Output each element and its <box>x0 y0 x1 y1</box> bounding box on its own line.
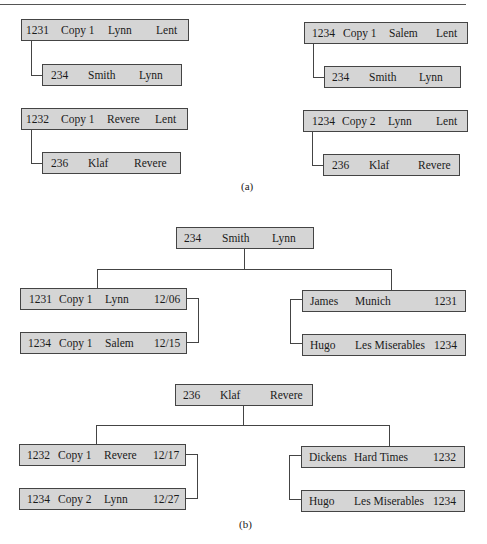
record-box: 1234 Copy 2 Lynn 12/27 <box>19 488 186 510</box>
field: 1231 <box>29 289 52 309</box>
field: Smith <box>88 65 115 85</box>
connector <box>312 165 323 166</box>
field: Les Miserables <box>354 491 424 511</box>
field: Copy 1 <box>58 445 92 465</box>
field: 236 <box>51 153 68 173</box>
connector <box>290 299 291 344</box>
field: 1234 <box>433 491 456 511</box>
root-record-box: 236 Klaf Revere <box>175 384 313 406</box>
field: Lent <box>156 20 177 40</box>
field: 12/06 <box>154 289 180 309</box>
field: Revere <box>134 153 167 173</box>
connector <box>290 299 302 300</box>
connector <box>97 269 98 288</box>
field: Lynn <box>388 111 412 131</box>
field: 1232 <box>26 109 49 129</box>
field: 12/15 <box>154 333 180 353</box>
field: Revere <box>104 445 137 465</box>
field: Lynn <box>139 65 163 85</box>
record-box: 1231 Copy 1 Lynn 12/06 <box>20 288 187 310</box>
connector <box>187 342 199 343</box>
field: Copy 2 <box>58 489 92 509</box>
field: James <box>310 291 338 311</box>
field: 1231 <box>434 291 457 311</box>
connector <box>312 132 313 166</box>
record-box: 236 Klaf Revere <box>323 154 460 176</box>
connector <box>313 44 314 78</box>
connector <box>290 343 302 344</box>
connector <box>96 425 97 444</box>
connector <box>313 77 324 78</box>
record-box: 1231 Copy 1 Lynn Lent <box>21 19 189 41</box>
record-box: 1232 Copy 1 Revere 12/17 <box>19 444 186 466</box>
connector <box>97 269 392 270</box>
caption-a: (a) <box>241 180 253 192</box>
field: Les Miserables <box>355 335 425 355</box>
field: Revere <box>418 155 451 175</box>
field: Revere <box>270 385 303 405</box>
field: Lynn <box>105 289 129 309</box>
field: Copy 1 <box>343 23 377 43</box>
record-box: 1234 Copy 1 Salem 12/15 <box>20 332 187 354</box>
connector <box>198 298 199 343</box>
field: Smith <box>369 67 396 87</box>
field: Lent <box>155 109 176 129</box>
field: 236 <box>332 155 349 175</box>
field: Revere <box>107 109 140 129</box>
connector <box>197 454 198 499</box>
connector <box>31 163 42 164</box>
record-box: 234 Smith Lynn <box>42 64 182 86</box>
field: 1232 <box>433 447 456 467</box>
field: Hard Times <box>354 447 408 467</box>
connector <box>243 406 244 425</box>
record-box: 1234 Copy 2 Lynn Lent <box>303 110 468 132</box>
field: 1234 <box>28 333 51 353</box>
field: Copy 1 <box>59 333 93 353</box>
caption-b: (b) <box>239 518 252 530</box>
field: 12/17 <box>153 445 179 465</box>
field: 12/27 <box>153 489 179 509</box>
record-box: 1234 Copy 1 Salem Lent <box>304 22 468 44</box>
connector <box>289 455 290 500</box>
field: Lynn <box>419 67 443 87</box>
field: 1234 <box>312 23 335 43</box>
connector <box>391 269 392 290</box>
field: 1234 <box>27 489 50 509</box>
field: Lent <box>436 23 457 43</box>
field: Klaf <box>88 153 108 173</box>
connector <box>186 498 198 499</box>
top-rule <box>0 4 466 5</box>
connector <box>244 249 245 269</box>
field: Munich <box>355 291 391 311</box>
field: 236 <box>183 385 200 405</box>
field: 1231 <box>26 20 49 40</box>
field: Salem <box>105 333 134 353</box>
record-box: 234 Smith Lynn <box>324 66 461 88</box>
field: Hugo <box>309 491 335 511</box>
record-box: 1232 Copy 1 Revere Lent <box>21 108 188 130</box>
field: 1232 <box>27 445 50 465</box>
field: Copy 2 <box>342 111 376 131</box>
connector <box>96 425 390 426</box>
root-record-box: 234 Smith Lynn <box>176 227 314 249</box>
field: Copy 1 <box>61 109 95 129</box>
record-box: Hugo Les Miserables 1234 <box>301 490 465 512</box>
field: 1234 <box>434 335 457 355</box>
field: Lynn <box>272 228 296 248</box>
connector <box>31 41 32 76</box>
connector <box>31 130 32 164</box>
record-box: Dickens Hard Times 1232 <box>301 446 465 468</box>
field: Smith <box>222 228 249 248</box>
field: Lynn <box>104 489 128 509</box>
field: 234 <box>51 65 68 85</box>
connector <box>389 425 390 446</box>
field: 1234 <box>312 111 335 131</box>
field: Lent <box>436 111 457 131</box>
field: 234 <box>184 228 201 248</box>
connector <box>31 75 42 76</box>
field: Klaf <box>369 155 389 175</box>
field: Copy 1 <box>59 289 93 309</box>
field: Copy 1 <box>61 20 95 40</box>
field: Lynn <box>108 20 132 40</box>
connector <box>289 455 301 456</box>
